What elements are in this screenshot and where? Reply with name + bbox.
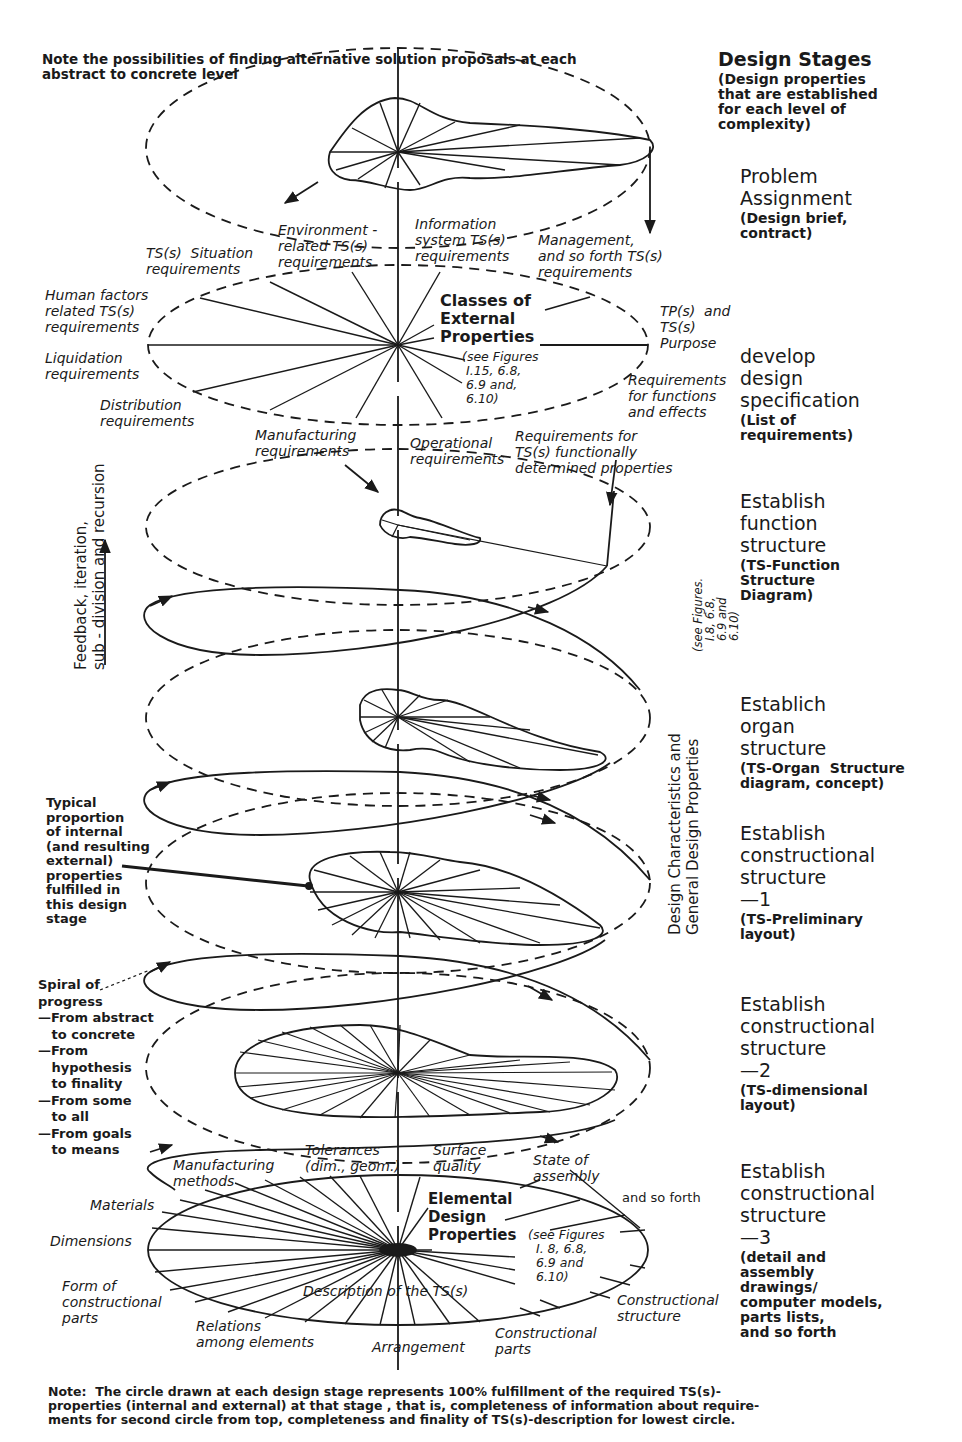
label-functions-effects: Requirements for functions and effects <box>628 372 726 420</box>
stage-4: Establich organ structure (TS-Organ Stru… <box>740 693 905 791</box>
label-operational: Operational requirements <box>410 435 504 467</box>
stage-3-subtitle: (TS-Function Structure Diagram) <box>740 558 840 603</box>
stage-1: Problem Assignment (Design brief, contra… <box>740 165 852 241</box>
stages-header-title: Design Stages <box>718 48 878 70</box>
stages-header-subtitle: (Design properties that are established … <box>718 72 878 132</box>
label-state-of-assembly: State of assembly <box>533 1152 599 1184</box>
stage-6-title: Establish constructional structure —2 <box>740 993 875 1081</box>
rays-1 <box>330 103 640 188</box>
label-manufacturing-req: Manufacturing requirements <box>255 427 356 459</box>
stage-6-subtitle: (TS-dimensional layout) <box>740 1083 875 1113</box>
label-arrangement: Arrangement <box>372 1339 465 1355</box>
rays-2 <box>148 272 465 418</box>
label-human-factors: Human factors related TS(s) requirements <box>45 287 148 335</box>
label-situation: TS(s) Situation requirements <box>146 245 253 277</box>
feedback-label: Feedback, iteration, sub - division and … <box>72 463 108 670</box>
stage-5-title: Establish constructional structure —1 <box>740 822 875 910</box>
stage-7: Establish constructional structure —3 (d… <box>740 1160 883 1340</box>
stage-2-subtitle: (List of requirements) <box>740 413 860 443</box>
label-surface-quality: Surface quality <box>433 1142 486 1174</box>
label-functionally-determined: Requirements for TS(s) functionally dete… <box>515 428 672 476</box>
stage-2: develop design specification (List of re… <box>740 345 860 443</box>
label-management: Management, and so forth TS(s) requireme… <box>538 232 663 280</box>
stage-6: Establish constructional structure —2 (T… <box>740 993 875 1113</box>
stage-7-subtitle: (detail and assembly drawings/ computer … <box>740 1250 883 1340</box>
rays-6 <box>235 1025 615 1118</box>
label-constructional-parts: Constructional parts <box>495 1325 597 1357</box>
stages-header: Design Stages (Design properties that ar… <box>718 48 878 132</box>
label-form-of-parts: Form of constructional parts <box>62 1278 162 1326</box>
proportion-shape-1 <box>329 98 653 190</box>
see-figures-vertical: (see Figures. I.8, 6.8, 6.9 and 6.10) <box>692 578 740 652</box>
rays-5 <box>310 852 600 943</box>
design-characteristics-label: Design Characteristics and General Desig… <box>666 733 702 935</box>
description-label: Description of the TS(s) <box>303 1283 468 1299</box>
stage-2-title: develop design specification <box>740 345 860 411</box>
label-materials: Materials <box>90 1197 154 1213</box>
label-manufacturing-methods: Manufacturing methods <box>173 1157 274 1189</box>
stage-4-subtitle: (TS-Organ Structure diagram, concept) <box>740 761 905 791</box>
label-purpose: TP(s) and TS(s) Purpose <box>660 303 730 351</box>
bottom-note: Note: The circle drawn at each design st… <box>48 1385 759 1427</box>
stage-7-title: Establish constructional structure —3 <box>740 1160 883 1248</box>
proportion-shape-5 <box>310 852 603 945</box>
label-environment: Environment - related TS(s) requirements <box>278 222 377 270</box>
label-distribution: Distribution requirements <box>100 397 194 429</box>
external-properties-ref: (see Figures I.15, 6.8, 6.9 and, 6.10) <box>462 350 539 406</box>
elemental-properties-ref: (see Figures I. 8, 6.8, 6.9 and 6.10) <box>528 1228 605 1284</box>
elemental-properties-title: Elemental Design Properties <box>428 1190 516 1244</box>
label-liquidation: Liquidation requirements <box>45 350 139 382</box>
label-information-system: Information system TS(s) requirements <box>415 216 509 264</box>
stage-5-subtitle: (TS-Preliminary layout) <box>740 912 875 942</box>
proportion-shape-4 <box>360 689 606 770</box>
stage-1-title: Problem Assignment <box>740 165 852 209</box>
top-note: Note the possibilities of finding altern… <box>42 52 577 82</box>
typical-proportion-note: Typical proportion of internal (and resu… <box>46 796 150 927</box>
label-constructional-structure: Constructional structure <box>617 1292 719 1324</box>
label-dimensions: Dimensions <box>50 1233 132 1249</box>
label-and-so-forth: and so forth <box>622 1190 701 1206</box>
label-tolerances: Tolerances (dim., geom.) <box>305 1142 400 1174</box>
rays-4 <box>360 690 598 768</box>
stage-3-title: Establish function structure <box>740 490 840 556</box>
stage-1-subtitle: (Design brief, contract) <box>740 211 852 241</box>
stage-4-title: Establich organ structure <box>740 693 905 759</box>
label-relations: Relations among elements <box>196 1318 314 1350</box>
spiral-progress-note: Spiral of progress —From abstract to con… <box>38 977 154 1159</box>
external-properties-title: Classes of External Properties <box>440 292 534 346</box>
stage-5: Establish constructional structure —1 (T… <box>740 822 875 942</box>
stage-3: Establish function structure (TS-Functio… <box>740 490 840 603</box>
